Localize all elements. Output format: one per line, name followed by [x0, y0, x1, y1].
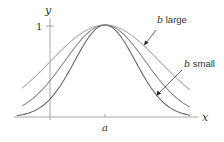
y-tick-label: 1: [36, 21, 42, 32]
label-b-large-text: large: [163, 14, 187, 25]
curve-b-large: [22, 25, 190, 90]
label-b-small: b small: [184, 58, 215, 69]
arrow-b-small: [159, 70, 182, 93]
bell-curves-diagram: y 1 a x b large b small: [0, 0, 224, 142]
label-b-small-text: small: [190, 58, 215, 69]
x-axis-label: x: [202, 111, 209, 124]
label-b-large: b large: [157, 14, 187, 25]
y-axis-label: y: [44, 4, 52, 17]
curve-b-small: [17, 25, 190, 116]
x-tick-label: a: [102, 122, 108, 133]
arrow-b-large: [146, 30, 156, 43]
